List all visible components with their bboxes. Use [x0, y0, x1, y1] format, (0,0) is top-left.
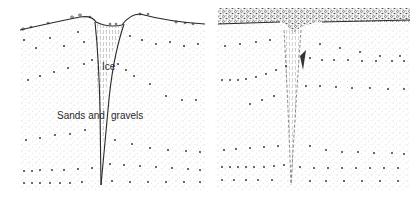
left-panel	[20, 13, 205, 190]
right-panel	[215, 8, 410, 190]
sands-and-label: Sands and	[57, 111, 105, 121]
right-sediment-body	[215, 22, 410, 190]
ice-wedge-diagram	[0, 0, 415, 203]
gravels-label: gravels	[111, 111, 143, 121]
ice-label: Ice	[102, 62, 115, 72]
